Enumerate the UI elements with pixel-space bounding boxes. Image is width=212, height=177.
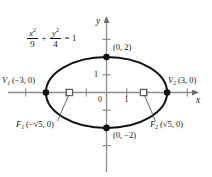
equation-plus-sign: + bbox=[42, 33, 47, 43]
focus-right-label: F2 (√5, 0) bbox=[150, 120, 183, 129]
focus-right-subscript: 2 bbox=[155, 124, 158, 130]
covertex-top-label: (0, 2) bbox=[113, 43, 131, 52]
vertex-left-label: V1 (−3, 0) bbox=[2, 76, 35, 85]
vertex-left-coords: (−3, 0) bbox=[12, 75, 35, 85]
vertex-left-point bbox=[43, 89, 50, 96]
vertex-right-subscript: 2 bbox=[173, 80, 176, 86]
equation-x-denominator: 9 bbox=[28, 39, 37, 49]
vertex-left-subscript: 1 bbox=[7, 80, 10, 86]
focus-left-label: F1 (−√5, 0) bbox=[16, 120, 54, 129]
ellipse-figure: x2 9 + y2 4 = 1 y x 0 1 1 (0, 2) (0, −2)… bbox=[0, 0, 212, 177]
focus-left-subscript: 1 bbox=[21, 124, 24, 130]
ellipse-equation: x2 9 + y2 4 = 1 bbox=[26, 27, 79, 49]
covertex-top-point bbox=[103, 54, 110, 61]
covertex-bottom-label: (0, −2) bbox=[113, 131, 136, 140]
focus-right-marker bbox=[140, 89, 146, 95]
vertex-right-coords: (3, 0) bbox=[178, 75, 196, 85]
origin-label: 0 bbox=[98, 96, 102, 104]
x-axis-label: x bbox=[196, 96, 200, 106]
vertex-right-label: V2 (3, 0) bbox=[168, 76, 196, 85]
equation-right-hand-side: = 1 bbox=[65, 33, 77, 43]
equation-y-numerator: y2 bbox=[50, 27, 61, 38]
equation-x-fraction: x2 9 bbox=[27, 27, 38, 49]
focus-left-coords: (−√5, 0) bbox=[26, 119, 54, 129]
vertex-right-point bbox=[164, 89, 171, 96]
focus-right-coords: (√5, 0) bbox=[160, 119, 183, 129]
focus-left-marker bbox=[66, 89, 72, 95]
equation-y-denominator: 4 bbox=[51, 39, 60, 49]
equation-x-numerator: x2 bbox=[27, 27, 38, 38]
equation-y-fraction: y2 4 bbox=[50, 27, 61, 49]
y-tick-label-1: 1 bbox=[94, 71, 98, 79]
x-tick-label-1: 1 bbox=[125, 96, 129, 104]
covertex-bottom-point bbox=[103, 125, 110, 132]
y-axis-label: y bbox=[96, 17, 100, 27]
